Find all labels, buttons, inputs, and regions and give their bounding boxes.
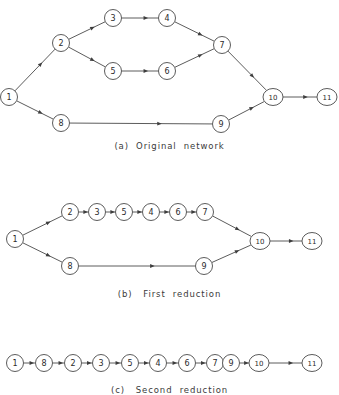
node-6[interactable]: 6 xyxy=(179,355,196,372)
node-label-4: 4 xyxy=(148,208,153,217)
node-label-2: 2 xyxy=(58,39,63,48)
node-label-1: 1 xyxy=(12,235,17,244)
edge-4-to-7 xyxy=(175,22,215,42)
node-label-10: 10 xyxy=(255,360,264,368)
node-label-6: 6 xyxy=(164,67,169,76)
node-label-3: 3 xyxy=(94,208,99,217)
node-3[interactable]: 3 xyxy=(89,204,106,221)
node-10[interactable]: 10 xyxy=(250,233,270,250)
edge-9-to-10 xyxy=(229,102,265,120)
node-4[interactable]: 4 xyxy=(159,10,176,27)
node-label-7: 7 xyxy=(219,41,224,50)
edge-1-to-8 xyxy=(23,243,63,263)
edge-9-to-10 xyxy=(212,245,251,262)
node-5[interactable]: 5 xyxy=(116,204,133,221)
arrowhead-6-to-7 xyxy=(201,361,206,365)
node-2[interactable]: 2 xyxy=(65,355,82,372)
edge-8-to-9 xyxy=(69,123,212,124)
arrowhead-6-to-7 xyxy=(191,210,196,214)
arrowhead-4-to-6 xyxy=(173,361,178,365)
arrowhead-5-to-4 xyxy=(144,361,149,365)
node-3[interactable]: 3 xyxy=(105,10,122,27)
edge-7-to-10 xyxy=(228,51,266,90)
edge-6-to-7 xyxy=(175,49,215,68)
arrowhead-10-to-11 xyxy=(289,361,294,365)
caption-panel-c: (c) Second reduction xyxy=(0,385,339,395)
node-11[interactable]: 11 xyxy=(317,89,337,106)
node-label-8: 8 xyxy=(58,119,63,128)
arrowhead-8-to-9 xyxy=(150,264,155,268)
node-label-5: 5 xyxy=(110,67,115,76)
arrowhead-9-to-10 xyxy=(244,361,249,365)
edge-2-to-5 xyxy=(68,47,105,67)
node-label-9: 9 xyxy=(228,359,233,368)
node-10[interactable]: 10 xyxy=(263,89,283,106)
node-label-8: 8 xyxy=(67,262,72,271)
node-8[interactable]: 8 xyxy=(36,355,53,372)
node-2[interactable]: 2 xyxy=(62,204,79,221)
node-4[interactable]: 4 xyxy=(143,204,160,221)
node-1[interactable]: 1 xyxy=(1,89,18,106)
node-label-7: 7 xyxy=(202,208,207,217)
node-5[interactable]: 5 xyxy=(105,63,122,80)
node-label-6: 6 xyxy=(184,359,189,368)
edge-1-to-8 xyxy=(17,101,54,119)
panel-second-reduction: 1823546791011 xyxy=(0,340,339,385)
arrowhead-4-to-6 xyxy=(164,210,169,214)
arrowhead-1-to-8 xyxy=(30,361,35,365)
node-label-3: 3 xyxy=(110,14,115,23)
node-label-7: 7 xyxy=(212,359,217,368)
node-6[interactable]: 6 xyxy=(170,204,187,221)
node-label-4: 4 xyxy=(164,14,169,23)
node-label-11: 11 xyxy=(323,94,332,102)
arrowhead-8-to-2 xyxy=(59,361,64,365)
arrowhead-3-to-5 xyxy=(116,361,121,365)
node-9[interactable]: 9 xyxy=(223,355,240,372)
node-label-2: 2 xyxy=(67,208,72,217)
node-label-9: 9 xyxy=(218,120,223,129)
arrowhead-10-to-11 xyxy=(289,239,294,243)
node-label-3: 3 xyxy=(98,359,103,368)
arrowhead-8-to-9 xyxy=(157,122,162,126)
node-9[interactable]: 9 xyxy=(213,116,230,133)
arrowhead-3-to-5 xyxy=(110,210,115,214)
caption-panel-a: (a) Original network xyxy=(0,141,339,151)
node-label-11: 11 xyxy=(308,360,317,368)
node-label-1: 1 xyxy=(12,359,17,368)
node-7[interactable]: 7 xyxy=(197,204,214,221)
node-label-10: 10 xyxy=(269,94,278,102)
node-7[interactable]: 7 xyxy=(214,37,231,54)
node-label-10: 10 xyxy=(256,238,265,246)
edge-7-to-10 xyxy=(213,216,252,236)
node-6[interactable]: 6 xyxy=(159,63,176,80)
node-3[interactable]: 3 xyxy=(93,355,110,372)
node-1[interactable]: 1 xyxy=(7,231,24,248)
caption-panel-b: (b) First reduction xyxy=(0,289,339,299)
node-label-5: 5 xyxy=(127,359,132,368)
node-label-11: 11 xyxy=(308,238,317,246)
edge-1-to-2 xyxy=(23,216,63,236)
panel-first-reduction: 1235467891011 xyxy=(0,185,339,285)
edge-1-to-2 xyxy=(15,49,55,91)
node-10[interactable]: 10 xyxy=(249,355,269,372)
arrowhead-2-to-3 xyxy=(87,361,92,365)
node-7[interactable]: 7 xyxy=(207,355,224,372)
node-label-9: 9 xyxy=(201,262,206,271)
arrowhead-10-to-11 xyxy=(303,95,308,99)
node-label-5: 5 xyxy=(121,208,126,217)
node-1[interactable]: 1 xyxy=(7,355,24,372)
node-9[interactable]: 9 xyxy=(196,258,213,275)
node-5[interactable]: 5 xyxy=(122,355,139,372)
node-2[interactable]: 2 xyxy=(53,35,70,52)
edge-2-to-3 xyxy=(69,22,106,40)
node-11[interactable]: 11 xyxy=(302,355,322,372)
node-label-6: 6 xyxy=(175,208,180,217)
node-8[interactable]: 8 xyxy=(53,115,70,132)
node-label-4: 4 xyxy=(155,359,160,368)
node-4[interactable]: 4 xyxy=(150,355,167,372)
arrowhead-5-to-6 xyxy=(144,69,149,73)
node-11[interactable]: 11 xyxy=(302,233,322,250)
node-8[interactable]: 8 xyxy=(62,258,79,275)
node-label-8: 8 xyxy=(41,359,46,368)
